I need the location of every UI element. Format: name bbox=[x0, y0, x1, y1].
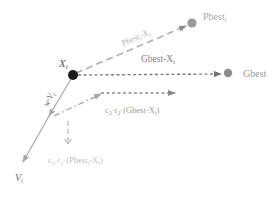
particle-node bbox=[68, 70, 78, 80]
gbest-node bbox=[224, 69, 232, 77]
gbest-label: Gbest bbox=[243, 68, 267, 79]
particle-label: Xi bbox=[58, 57, 68, 71]
social-label: c2·r2·(Gbest-Xi) bbox=[105, 105, 160, 116]
gbest-minus-x-label: Gbest-Xi bbox=[141, 54, 175, 65]
pbest-label: Pbesti bbox=[203, 11, 227, 23]
pso-diagram: Pbesti Gbest Xi Pbesti-Xi Gbest-Xi w·Vi … bbox=[0, 0, 279, 197]
pbest-minus-x-label: Pbesti-Xi bbox=[120, 27, 152, 49]
velocity-label: Vi bbox=[15, 172, 23, 184]
gbest-direction-line bbox=[78, 74, 221, 75]
cognitive-label: c1·r1·(Pbesti-Xi) bbox=[48, 155, 103, 166]
velocity-line bbox=[23, 116, 49, 162]
pbest-node bbox=[187, 18, 196, 27]
social-component-line bbox=[54, 94, 101, 116]
